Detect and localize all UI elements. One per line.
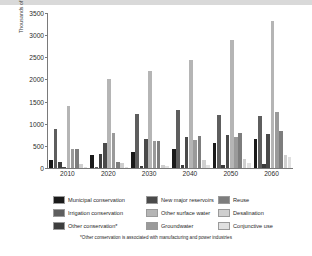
bar[interactable] (217, 115, 221, 168)
bar[interactable] (144, 139, 148, 168)
y-axis-tick-label: 2000 (29, 76, 44, 83)
bar[interactable] (116, 162, 120, 168)
y-axis-tick-mark (45, 35, 48, 36)
bar[interactable] (279, 131, 283, 168)
bar[interactable] (234, 137, 238, 168)
legend-swatch-icon (146, 196, 158, 204)
legend-item-label: Irrigation conservation (68, 210, 123, 216)
bar[interactable] (58, 162, 62, 168)
x-axis-tick-labels: 201020202030204020502060 (47, 170, 292, 182)
bar[interactable] (140, 166, 144, 168)
y-axis-tick-label: 1000 (29, 120, 44, 127)
y-axis-tick-mark (45, 168, 48, 169)
chart-footnote: *Other conservation is associated with m… (0, 235, 312, 240)
legend-item[interactable]: Municipal conservation (53, 196, 146, 204)
legend-swatch-icon (53, 222, 65, 230)
bar[interactable] (62, 167, 66, 168)
legend-item[interactable]: Conjunctive use (218, 222, 285, 230)
legend-item[interactable]: Other surface water (146, 209, 218, 217)
bar[interactable] (230, 40, 234, 168)
bar[interactable] (90, 155, 94, 168)
legend-swatch-icon (218, 209, 230, 217)
x-axis-tick-label: 2050 (211, 170, 251, 182)
bar[interactable] (103, 143, 107, 168)
legend-item[interactable]: Groundwater (146, 222, 218, 230)
y-axis-tick-mark (45, 102, 48, 103)
y-axis-tick-mark (45, 13, 48, 14)
y-axis-tick-mark (45, 57, 48, 58)
bar-chart-figure: Thousands of acre-feet 05001000150020002… (0, 5, 312, 256)
bar[interactable] (84, 167, 88, 168)
legend-item-label: Conjunctive use (233, 223, 273, 229)
bar-group-2060 (253, 13, 292, 168)
y-axis-tick-mark (45, 124, 48, 125)
bar[interactable] (288, 157, 292, 169)
bar[interactable] (79, 164, 83, 168)
bar[interactable] (71, 149, 75, 168)
bar[interactable] (120, 163, 124, 168)
bar[interactable] (247, 163, 251, 168)
chart-legend: Municipal conservationNew major reservoi… (53, 193, 285, 232)
legend-item[interactable]: Irrigation conservation (53, 209, 146, 217)
bar[interactable] (243, 159, 247, 168)
bar[interactable] (153, 141, 157, 168)
bar-group-2030 (131, 13, 170, 168)
bar[interactable] (202, 160, 206, 168)
bar[interactable] (262, 164, 266, 168)
bar[interactable] (176, 110, 180, 168)
bar[interactable] (181, 165, 185, 168)
plot-area-wrapper: Thousands of acre-feet 05001000150020002… (0, 5, 312, 187)
bar[interactable] (161, 165, 165, 168)
bar-group-2050 (212, 13, 251, 168)
bar[interactable] (67, 106, 71, 168)
legend-item[interactable]: Other conservation* (53, 222, 146, 230)
y-axis-tick-label: 2500 (29, 54, 44, 61)
bar[interactable] (266, 134, 270, 168)
bar[interactable] (193, 140, 197, 168)
legend-swatch-icon (53, 196, 65, 204)
bar[interactable] (165, 166, 169, 168)
bar[interactable] (189, 60, 193, 168)
bar[interactable] (148, 71, 152, 168)
bar[interactable] (238, 133, 242, 168)
x-axis-tick-label: 2020 (88, 170, 128, 182)
legend-swatch-icon (218, 196, 230, 204)
bar[interactable] (131, 152, 135, 168)
bar[interactable] (258, 116, 262, 168)
x-axis-tick-label: 2030 (129, 170, 169, 182)
bar[interactable] (271, 21, 275, 168)
y-axis-tick-mark (45, 79, 48, 80)
bar[interactable] (135, 114, 139, 168)
y-axis-tick-mark (45, 146, 48, 147)
legend-swatch-icon (146, 209, 158, 217)
bar[interactable] (172, 149, 176, 168)
legend-item[interactable]: New major reservoirs (146, 196, 218, 204)
legend-swatch-icon (53, 209, 65, 217)
bar[interactable] (125, 167, 129, 168)
bar[interactable] (75, 149, 79, 168)
bar[interactable] (198, 136, 202, 168)
legend-item-label: Desalination (233, 210, 264, 216)
bar[interactable] (275, 112, 279, 168)
bar[interactable] (112, 133, 116, 168)
bar[interactable] (99, 154, 103, 168)
bar-groups (48, 13, 293, 168)
legend-item-label: Groundwater (161, 223, 193, 229)
legend-item[interactable]: Reuse (218, 196, 285, 204)
bar[interactable] (185, 137, 189, 168)
bar-group-2020 (90, 13, 129, 168)
bar[interactable] (221, 165, 225, 168)
bar[interactable] (284, 155, 288, 168)
bar[interactable] (254, 139, 258, 168)
bar[interactable] (213, 143, 217, 168)
bar[interactable] (54, 129, 58, 168)
legend-item[interactable]: Desalination (218, 209, 285, 217)
legend-swatch-icon (146, 222, 158, 230)
bar[interactable] (206, 165, 210, 168)
bar[interactable] (49, 160, 53, 168)
bar[interactable] (226, 135, 230, 168)
bar[interactable] (107, 79, 111, 168)
y-axis-tick-label: 0 (40, 165, 44, 172)
bar[interactable] (157, 141, 161, 168)
bar[interactable] (95, 167, 99, 168)
